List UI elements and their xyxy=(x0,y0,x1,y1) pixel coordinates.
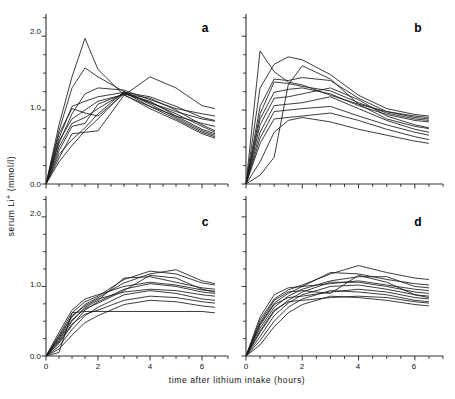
panel-a-ytick-1: 1.0 xyxy=(30,103,42,112)
panel-a-letter: a xyxy=(202,21,209,35)
panel-d-xtick-2: 2 xyxy=(300,362,305,371)
panel-b: b xyxy=(242,14,444,189)
panel-b-curves xyxy=(246,51,429,184)
curve-a xyxy=(46,92,215,184)
panel-a-curves xyxy=(46,38,215,184)
panel-a-ytick-2: 2.0 xyxy=(30,27,42,36)
panel-a: 0.0 1.0 2.0 a xyxy=(30,14,228,189)
panel-d-x-ticks xyxy=(246,356,443,361)
panel-c-ytick-0: 0.0 xyxy=(30,352,42,361)
curve-c xyxy=(46,291,215,356)
panel-d-xtick-0: 0 xyxy=(244,362,249,371)
figure-canvas: 0.0 1.0 2.0 a b 0.0 1.0 2.0 c 0 2 xyxy=(0,0,455,399)
curve-b xyxy=(246,88,429,184)
curve-d xyxy=(246,273,429,356)
y-axis-label-pre: serum Li xyxy=(6,199,16,236)
panel-d-y-ticks xyxy=(242,199,247,356)
curve-c xyxy=(46,284,215,356)
panel-b-letter: b xyxy=(414,21,421,35)
panel-b-x-ticks xyxy=(246,184,443,189)
panel-d-xtick-6: 6 xyxy=(412,362,417,371)
panel-c-xtick-4: 4 xyxy=(148,362,153,371)
curve-c xyxy=(46,270,215,356)
panel-d-xtick-4: 4 xyxy=(356,362,361,371)
panel-c-xtick-2: 2 xyxy=(96,362,101,371)
panel-c-letter: c xyxy=(202,215,209,229)
panel-c-x-ticks xyxy=(46,356,228,361)
panel-c: 0.0 1.0 2.0 c 0 2 4 6 xyxy=(30,196,228,371)
panel-c-xtick-0: 0 xyxy=(44,362,49,371)
curve-a xyxy=(46,88,215,184)
panel-d-curves xyxy=(246,266,429,356)
panel-a-y-ticks xyxy=(42,18,47,184)
y-axis-label: serum Li+ (mmol/l) xyxy=(5,156,16,237)
y-axis-label-post: (mmol/l) xyxy=(6,156,16,194)
svg-text:serum Li+ (mmol/l): serum Li+ (mmol/l) xyxy=(5,156,16,237)
panel-a-ytick-0: 0.0 xyxy=(30,180,42,189)
curve-d xyxy=(246,282,429,356)
panel-a-x-ticks xyxy=(46,184,228,189)
panel-c-curves xyxy=(46,270,215,356)
curve-a xyxy=(46,93,215,184)
panel-d-letter: d xyxy=(414,215,421,229)
panel-c-y-ticks xyxy=(42,199,47,356)
figure-svg: 0.0 1.0 2.0 a b 0.0 1.0 2.0 c 0 2 xyxy=(0,0,455,399)
x-axis-label: time after lithium intake (hours) xyxy=(169,375,305,385)
panel-c-ytick-1: 1.0 xyxy=(30,280,42,289)
panel-c-ytick-2: 2.0 xyxy=(30,209,42,218)
curve-c xyxy=(46,300,215,356)
panel-c-xtick-6: 6 xyxy=(200,362,205,371)
curve-a xyxy=(46,92,215,184)
curve-b xyxy=(246,117,429,184)
curve-a xyxy=(46,92,215,184)
panel-d: d 0 2 4 6 xyxy=(242,196,444,371)
curve-b xyxy=(246,97,429,184)
curve-b xyxy=(246,88,429,184)
panel-b-y-ticks xyxy=(242,18,247,184)
